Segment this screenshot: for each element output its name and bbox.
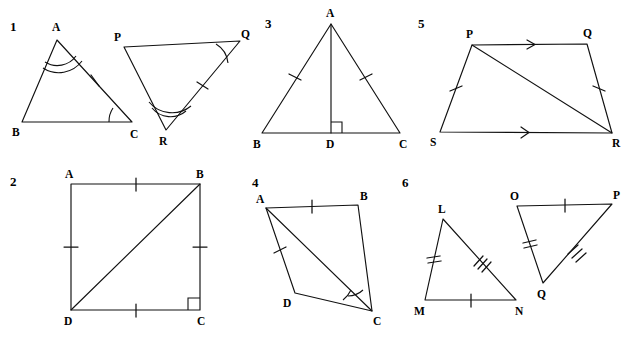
vertex-label-r: R: [612, 137, 621, 149]
figure-problem-1: A B C P Q R: [0, 0, 260, 150]
vertex-label-a: A: [256, 193, 265, 205]
right-angle-d-icon: [331, 122, 342, 133]
figure-problem-3-svg: A B C D: [240, 0, 430, 160]
vertex-label-p: P: [114, 31, 121, 43]
vertex-label-d: D: [283, 297, 291, 309]
angle-arc-c-second-icon: [343, 290, 351, 300]
tick-pq-second-icon: [572, 249, 582, 258]
triangle-opq-outline: [517, 204, 612, 283]
triangle-abc-outline: [22, 40, 132, 122]
vertex-label-n: N: [515, 305, 524, 317]
vertex-label-s: S: [430, 136, 436, 148]
vertex-label-c: C: [399, 138, 407, 150]
vertex-label-d: D: [326, 138, 334, 150]
vertex-label-r: R: [159, 135, 168, 147]
triangle-pqr-outline: [124, 41, 240, 130]
tick-ps-icon: [450, 86, 462, 91]
vertex-label-p: P: [613, 189, 620, 201]
vertex-label-a: A: [326, 7, 335, 19]
vertex-label-q: Q: [537, 288, 546, 300]
figure-problem-6: L M N O P Q: [395, 165, 628, 342]
square-abcd: A B C D: [64, 168, 207, 327]
angle-arc-q-icon: [216, 44, 228, 63]
vertex-label-c: C: [130, 128, 138, 140]
vertex-label-l: L: [438, 203, 446, 215]
figure-problem-5: P Q R S: [420, 0, 628, 160]
trapezium-pqrs: P Q R S: [430, 27, 621, 149]
vertex-label-b: B: [253, 138, 261, 150]
right-angle-c-icon: [188, 298, 200, 310]
vertex-label-a: A: [65, 168, 74, 180]
vertex-label-c: C: [373, 315, 381, 327]
vertex-label-o: O: [510, 190, 519, 202]
vertex-label-b: B: [12, 126, 20, 138]
figure-problem-2: A B C D: [0, 165, 240, 342]
tick-lm-second-icon: [428, 261, 441, 263]
vertex-label-c: C: [197, 315, 205, 327]
triangle-abc-altitude: A B C D: [253, 7, 407, 150]
triangle-lmn-outline: [425, 219, 516, 300]
trapezium-pqrs-outline: [440, 44, 612, 133]
tick-lm-first-icon: [427, 256, 440, 258]
angle-arc-c-icon: [109, 108, 113, 122]
diagonal-db: [71, 184, 200, 310]
vertex-label-d: D: [64, 315, 72, 327]
figure-problem-6-svg: L M N O P Q: [395, 165, 628, 342]
figure-problem-4-svg: A B C D: [240, 165, 400, 342]
figure-problem-4: A B C D: [240, 165, 400, 342]
vertex-label-m: M: [414, 305, 425, 317]
figure-problem-1-svg: A B C P Q R: [0, 0, 260, 150]
vertex-label-p: P: [466, 28, 473, 40]
figure-problem-2-svg: A B C D: [0, 165, 240, 342]
triangle-lmn: L M N: [414, 203, 524, 317]
quadrilateral-abcd: A B C D: [256, 190, 381, 327]
figure-problem-5-svg: P Q R S: [420, 0, 628, 160]
figure-problem-3: A B C D: [240, 0, 430, 160]
tick-ac-icon: [91, 75, 99, 86]
tick-qr-icon: [197, 82, 208, 89]
vertex-label-a: A: [52, 21, 61, 33]
triangle-opq: O P Q: [510, 189, 620, 300]
vertex-label-b: B: [196, 168, 204, 180]
angle-arc-a-outer-icon: [43, 61, 82, 73]
diagonal-ac: [266, 208, 372, 311]
vertex-label-b: B: [360, 190, 368, 202]
tick-pq-first-icon: [568, 245, 578, 254]
worksheet-sheet: 1 A B C: [0, 0, 628, 342]
tick-pq-third-icon: [576, 253, 586, 262]
vertex-label-q: Q: [583, 27, 592, 39]
